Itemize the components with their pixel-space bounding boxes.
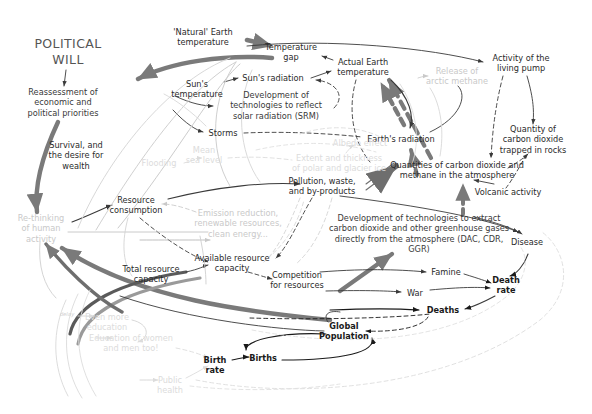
edge-political-will-to-reassessment [64,70,66,86]
node-rethinking-of-human-activity: Re-thinking of human activity [10,213,72,244]
node-competition-for-resources: Competition for resources [264,270,330,291]
node-actual-earth-temperature: Actual Earth temperature [328,57,398,78]
node-emission-reduction-clean-energy: Emission reduction, renewable resources,… [186,208,290,239]
node-survival-and-desire-for-wealth: Survival, and the desire for wealth [40,140,112,171]
node-resource-consumption: Resource consumption [103,195,169,216]
edge-resource-consumption-to-pollution [168,184,300,199]
node-solar-radiation-management: Development of technologies to reflect s… [220,90,332,121]
edge-faded-rethinking-down [40,242,56,298]
edge-faded-leftfan-2 [66,294,82,398]
node-pollution-waste-and-by-products: Pollution, waste, and by-products [282,176,362,197]
edge-earths-radiation-to-actual-temp-ret [430,86,462,132]
node-temperature-gap: Temperature gap [258,42,324,63]
node-education-of-women-and-men: Education of women and men too! [85,333,177,354]
edge-volcanic-to-co2 [474,180,494,184]
causal-loop-diagram: POLITICAL WILL 'Natural' Earth temperatu… [0,0,592,414]
node-release-of-arctic-methane: Release of arctic methane [420,66,494,87]
node-birth-rate: Birth rate [199,355,231,376]
node-storms: Storms [204,128,242,138]
edge-living-pump-to-quantity-rocks [527,76,533,124]
node-available-resource-capacity: Available resource capacity [189,253,275,274]
node-global-population: Global Population [316,321,372,342]
edge-births-to-population-loop [282,338,372,360]
node-public-health: Public health [151,375,189,396]
edge-competition-to-dac [340,254,392,291]
edge-faded-mean-to-polar [228,157,292,160]
edge-deaths-dashed-to-population [366,317,428,331]
edge-death-rate-to-deaths [465,296,495,309]
node-famine: Famine [427,267,465,277]
node-extent-polar-glacier-ice: Extent and thickness of polar and glacie… [289,153,389,174]
node-even-more-education: Even more education [80,312,134,333]
edge-co2-to-actual-temp [389,80,431,158]
edge-population-to-births-loop [246,334,326,350]
node-disease: Disease [506,237,548,247]
node-political-will: POLITICAL WILL [20,36,116,69]
node-mean-sea-level: Mean sea level [182,145,226,166]
node-delay-label: delay [55,311,79,318]
node-dac-cdr-ggr-technologies: Development of technologies to extract c… [326,213,512,254]
edge-faded-ellipse-inner [242,70,260,182]
node-deaths: Deaths [425,305,461,315]
node-total-resource-capacity: Total resource capacity [116,264,186,285]
node-volcanic-activity: Volcanic activity [469,187,547,197]
node-suns-temperature: Sun's temperature [166,79,228,100]
node-reassessment-of-priorities: Reassessment of economic and political p… [14,87,112,118]
edge-faded-publichealth-right [190,384,340,390]
edge-competition-to-famine [320,270,426,272]
node-suns-radiation: Sun's radiation [238,73,308,83]
edge-faded-methane-arc [430,88,442,156]
node-death-rate: Death rate [488,275,524,296]
node-quantity-of-co2-trapped-in-rocks: Quantity of carbon dioxide trapped in ro… [491,124,575,155]
node-war: War [402,288,428,298]
node-quantities-of-co2-and-methane: Quantities of carbon dioxide and methane… [385,160,529,181]
node-flooding: Flooding [137,158,181,168]
edge-population-to-global-left [120,296,324,331]
edge-population-to-deaths [330,309,419,310]
edge-famine-to-death-rate [464,274,491,283]
edge-competition-to-war [326,291,401,292]
node-natural-earth-temperature: 'Natural' Earth temperature [164,27,242,48]
edge-war-to-death-rate [430,287,490,290]
node-births: Births [246,353,280,363]
edge-rethinking-return-thick [46,244,122,312]
node-albedo-effect: Albedo effect [329,138,391,148]
edge-faded-big-bottom-dashed-loop-2 [252,246,525,340]
